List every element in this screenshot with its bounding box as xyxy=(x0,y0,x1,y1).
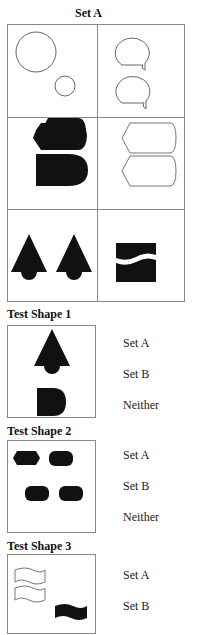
set-a-cell-arrows xyxy=(8,210,97,302)
bullet-shapes-outline-icon xyxy=(98,118,186,209)
test-shape-1-label: Test Shape 1 xyxy=(7,307,71,322)
test-2-option-neither[interactable]: Neither xyxy=(123,510,159,525)
test-1-option-set-a[interactable]: Set A xyxy=(123,336,149,351)
set-a-cell-bullets-filled xyxy=(8,118,97,209)
speech-bubbles-icon xyxy=(98,25,186,117)
test-2-option-set-b[interactable]: Set B xyxy=(123,479,149,494)
rounded-shapes-filled-icon xyxy=(8,441,97,534)
circles-icon xyxy=(8,25,97,117)
test-3-option-set-b[interactable]: Set B xyxy=(123,599,149,614)
test-1-option-set-b[interactable]: Set B xyxy=(123,367,149,382)
arrow-and-bullet-filled-icon xyxy=(8,326,97,419)
test-shape-3-box xyxy=(7,554,96,634)
test-shape-3-label: Test Shape 3 xyxy=(7,539,71,554)
test-2-option-set-a[interactable]: Set A xyxy=(123,448,149,463)
test-shape-1-box xyxy=(7,325,96,418)
test-shape-2-box xyxy=(7,440,96,533)
set-a-cell-speech-bubbles xyxy=(98,25,186,117)
bullet-top-icon xyxy=(8,118,97,209)
split-square-filled-icon xyxy=(98,210,186,302)
set-a-cell-bullets-outline xyxy=(98,118,186,209)
arrow-shapes-filled-icon xyxy=(8,210,97,302)
test-3-option-set-a[interactable]: Set A xyxy=(123,568,149,583)
set-a-cell-split-square xyxy=(98,210,186,302)
set-a-grid xyxy=(7,24,185,302)
set-a-title: Set A xyxy=(75,6,102,21)
test-shape-2-label: Test Shape 2 xyxy=(7,424,71,439)
set-a-cell-circles xyxy=(8,25,97,117)
wavy-flags-icon xyxy=(8,555,97,635)
test-1-option-neither[interactable]: Neither xyxy=(123,398,159,413)
